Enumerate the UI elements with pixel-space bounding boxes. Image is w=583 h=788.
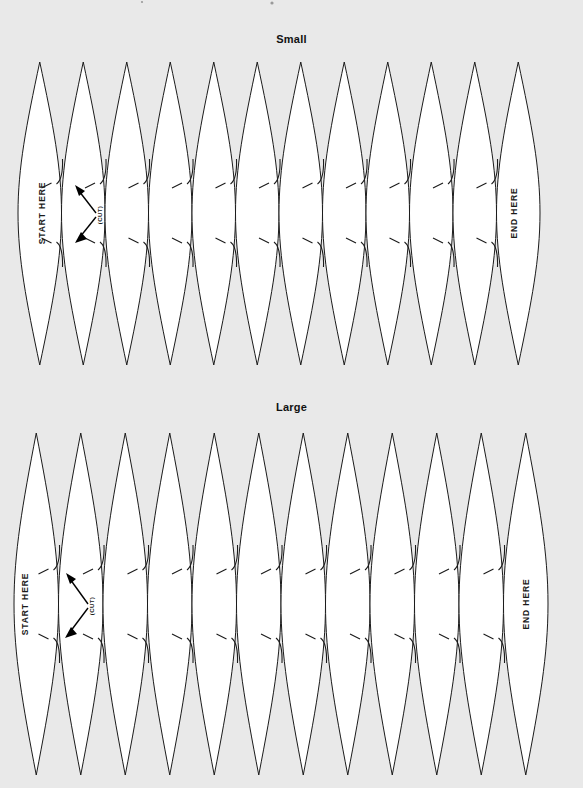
gore-shape [105, 62, 149, 365]
gore-shape [236, 62, 280, 365]
gore-shape [415, 433, 460, 775]
gore-shape [192, 433, 237, 775]
cut-label-small: (CUT) [96, 206, 103, 224]
gore-shape [237, 433, 282, 775]
gore-shape [59, 433, 104, 775]
gore-shape [149, 62, 193, 365]
gore-shape [366, 62, 410, 365]
end-here-label-small: END HERE [509, 187, 519, 238]
gore-shape [103, 433, 148, 775]
gore-shape [323, 62, 367, 365]
gore-shape [148, 433, 193, 775]
panel-title-large: Large [0, 401, 583, 413]
start-here-label-small: START HERE [37, 182, 47, 245]
gore-shape [281, 433, 326, 775]
panel-title-small: Small [0, 33, 583, 45]
panel-small: Small START HERE END HERE (CUT) [0, 0, 583, 390]
start-here-label-large: START HERE [20, 573, 30, 636]
template-page: Small START HERE END HERE (CUT) Large [0, 0, 583, 788]
gore-shape [410, 62, 454, 365]
gore-diagram-large: START HERE END HERE (CUT) [0, 425, 583, 788]
panel-large: Large START HERE END HERE (CUT) [0, 390, 583, 788]
gore-shape [192, 62, 236, 365]
cut-label-large: (CUT) [88, 597, 95, 615]
gore-shape [326, 433, 371, 775]
gore-shape [279, 62, 323, 365]
gore-shape [370, 433, 415, 775]
gore-shape [459, 433, 504, 775]
end-here-label-large: END HERE [521, 578, 531, 629]
gore-diagram-small: START HERE END HERE (CUT) [0, 55, 583, 385]
gore-shape [453, 62, 497, 365]
